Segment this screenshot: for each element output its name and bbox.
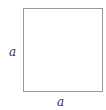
square-shape: [23, 8, 103, 92]
side-label-bottom: a: [57, 96, 64, 108]
side-label-left: a: [9, 46, 16, 58]
diagram-canvas: a a: [0, 0, 106, 110]
